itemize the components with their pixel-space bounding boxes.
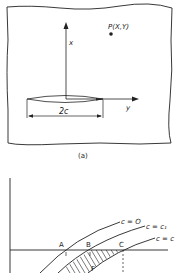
dim-arrow-left-icon	[28, 114, 33, 117]
curve-c-one-label: c = c₁	[146, 223, 167, 231]
x-axis-arrow-icon	[64, 22, 69, 29]
point-p-label: P(X,Y)	[108, 23, 129, 31]
point-p	[109, 32, 113, 36]
point-f-label: F	[91, 265, 95, 273]
figure-a: x y 2c P(X,Y)	[7, 4, 172, 145]
y-axis-arrow-icon	[132, 97, 139, 102]
curve-c-zero	[40, 222, 120, 273]
point-a-label: A	[59, 241, 64, 249]
dimension-label: 2c	[59, 107, 69, 116]
y-axis-label: y	[125, 104, 131, 112]
dim-arrow-right-icon	[97, 114, 102, 117]
figure-a-caption: (a)	[78, 152, 88, 160]
curve-c-c-label: c = c	[156, 235, 174, 243]
point-c-label: C	[119, 241, 124, 249]
diagram-canvas: x y 2c P(X,Y) (a)	[0, 0, 179, 273]
x-axis-label: x	[68, 39, 74, 47]
figure-b: A B C F c = O c = c₁ c = c	[10, 178, 174, 273]
figure-a-frame	[7, 4, 172, 145]
point-b-label: B	[86, 241, 91, 249]
curve-c-zero-label: c = O	[121, 218, 141, 226]
